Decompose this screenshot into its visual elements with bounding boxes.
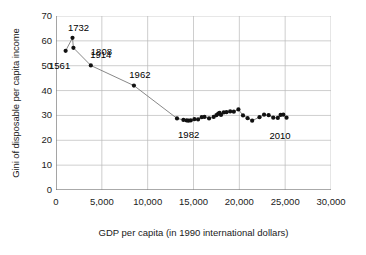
plot-area: 1561173218081914196219822010: [56, 16, 331, 190]
point-annotation: 1914: [90, 49, 111, 60]
x-tick-label: 25,000: [271, 196, 300, 207]
data-point: [196, 117, 200, 121]
data-point: [71, 46, 75, 50]
x-tick-label: 30,000: [316, 196, 345, 207]
data-point: [64, 49, 68, 53]
point-annotation: 1982: [178, 129, 199, 140]
data-point: [232, 110, 236, 114]
data-point: [70, 36, 74, 40]
data-point: [132, 84, 136, 88]
plot-svg: [56, 16, 331, 190]
x-axis-tick-labels: 05,00010,00015,00020,00025,00030,000: [56, 196, 331, 210]
data-point: [257, 115, 261, 119]
data-point: [281, 113, 285, 117]
x-tick-label: 0: [53, 196, 58, 207]
y-axis-title: Gini of disposable per capita income: [10, 16, 24, 190]
data-point: [250, 119, 254, 123]
data-point: [284, 116, 288, 120]
x-tick-label: 20,000: [225, 196, 254, 207]
data-point: [267, 113, 271, 117]
data-point: [89, 63, 93, 67]
x-axis-title: GDP per capita (in 1990 international do…: [56, 227, 331, 238]
data-point: [202, 115, 206, 119]
data-point: [207, 116, 211, 120]
data-point: [224, 110, 228, 114]
x-tick-label: 5,000: [90, 196, 114, 207]
data-point: [189, 118, 193, 122]
x-tick-label: 15,000: [179, 196, 208, 207]
point-annotation: 2010: [269, 129, 290, 140]
data-point: [228, 109, 232, 113]
data-point: [175, 116, 179, 120]
data-point: [245, 116, 249, 120]
x-tick-label: 10,000: [133, 196, 162, 207]
point-annotation: 1962: [129, 68, 150, 79]
point-annotation: 1561: [49, 59, 70, 70]
chart-figure: 010203040506070 156117321808191419621982…: [0, 0, 366, 255]
data-point: [192, 117, 196, 121]
data-point: [236, 107, 240, 111]
data-point: [271, 116, 275, 120]
point-annotation: 1732: [68, 21, 89, 32]
data-point: [241, 113, 245, 117]
data-point: [262, 113, 266, 117]
